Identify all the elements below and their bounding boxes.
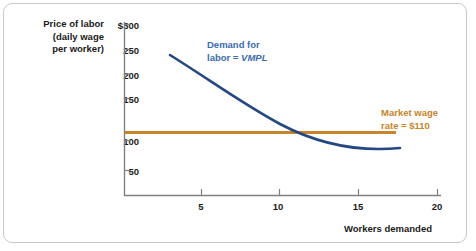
- chart-figure: Price of labor (daily wage per worker) $…: [0, 0, 476, 251]
- demand-curve-line: [170, 55, 400, 149]
- plot-area: [0, 0, 476, 251]
